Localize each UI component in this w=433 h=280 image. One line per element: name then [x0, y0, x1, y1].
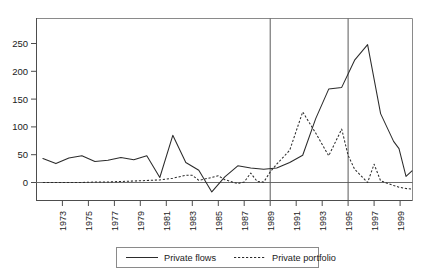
x-tick-label-1981: 1981 — [162, 211, 172, 231]
y-tick-label-200: 200 — [12, 66, 28, 77]
x-tick-label-1987: 1987 — [240, 211, 250, 231]
y-tick-label-250: 250 — [12, 38, 28, 49]
series-layer — [37, 19, 413, 200]
x-tick-label-1993: 1993 — [318, 211, 328, 231]
y-tick-label-100: 100 — [12, 121, 28, 132]
y-tick-label-150: 150 — [12, 94, 28, 105]
x-tick-label-1989: 1989 — [266, 211, 276, 231]
x-tick-label-1979: 1979 — [136, 211, 146, 231]
x-tick-label-1991: 1991 — [292, 211, 302, 231]
x-tick-label-1973: 1973 — [58, 211, 68, 231]
x-tick-label-1999: 1999 — [396, 211, 406, 231]
x-tick-label-1975: 1975 — [84, 211, 94, 231]
x-tick-label-1977: 1977 — [110, 211, 120, 231]
x-tick-label-1983: 1983 — [188, 211, 198, 231]
legend-label-private-flows: Private flows — [164, 253, 216, 263]
x-tick-label-1997: 1997 — [370, 211, 380, 231]
y-tick-label-0: 0 — [23, 177, 28, 188]
chart-figure: 250 200 150 100 50 0 — [0, 0, 433, 280]
legend-label-private-portfolio: Private portfolio — [272, 253, 336, 263]
chart-svg: 250 200 150 100 50 0 — [0, 0, 433, 280]
x-tick-label-1985: 1985 — [214, 211, 224, 231]
x-tick-label-1995: 1995 — [344, 211, 354, 231]
y-tick-label-50: 50 — [17, 149, 28, 160]
legend: Private flows Private portfolio — [117, 248, 336, 268]
